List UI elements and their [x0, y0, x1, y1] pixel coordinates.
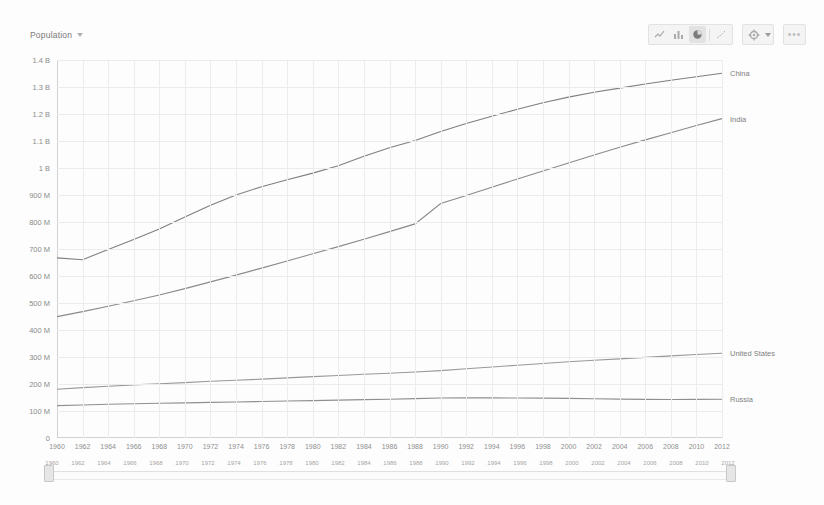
x-axis-tick-label: 1972	[203, 443, 219, 450]
y-axis-tick-label: 900 M	[29, 191, 50, 200]
slider-tick-label: 2004	[617, 460, 630, 466]
y-axis-tick-label: 700 M	[29, 245, 50, 254]
x-axis-tick-label: 1966	[126, 443, 142, 450]
toolbar-divider	[709, 29, 710, 41]
gridline-vertical	[262, 60, 263, 438]
slider-tick-label: 1988	[409, 460, 422, 466]
slider-tick-label: 2010	[695, 460, 708, 466]
gridline-vertical	[134, 60, 135, 438]
chart-toolbar: •••	[648, 24, 806, 45]
slider-tick-label: 2006	[643, 460, 656, 466]
slider-tick-label: 1972	[201, 460, 214, 466]
x-axis-tick-label: 1982	[331, 443, 347, 450]
slider-tick-label: 1974	[227, 460, 240, 466]
slider-tick-label: 1986	[383, 460, 396, 466]
chart-plot-area: 0100 M200 M300 M400 M500 M600 M700 M800 …	[57, 60, 722, 438]
y-axis-tick-label: 1.3 B	[32, 83, 50, 92]
slider-handle-left[interactable]	[44, 465, 54, 482]
y-axis-tick-label: 200 M	[29, 380, 50, 389]
slider-handle-right[interactable]	[726, 465, 736, 482]
x-axis-tick-label: 1980	[305, 443, 321, 450]
x-axis-tick-label: 1986	[382, 443, 398, 450]
slider-tick-label: 1970	[175, 460, 188, 466]
x-axis-tick-label: 2002	[586, 443, 602, 450]
gridline-vertical	[543, 60, 544, 438]
gear-icon[interactable]	[745, 26, 762, 43]
x-axis-tick-label: 1984	[356, 443, 372, 450]
slider-tick-label: 1982	[331, 460, 344, 466]
chevron-down-icon[interactable]	[765, 33, 771, 37]
chart-type-pie-icon[interactable]	[689, 26, 706, 43]
x-axis-tick-label: 2010	[689, 443, 705, 450]
chart-title-label: Population	[30, 30, 72, 40]
slider-tick-label: 1978	[279, 460, 292, 466]
slider-tick-label: 1964	[97, 460, 110, 466]
gridline-vertical	[466, 60, 467, 438]
chart-type-line-icon[interactable]	[651, 26, 668, 43]
x-axis-tick-label: 1964	[100, 443, 116, 450]
gridline-vertical	[415, 60, 416, 438]
series-label: Russia	[730, 395, 753, 404]
gridline-vertical	[236, 60, 237, 438]
chart-settings-group	[742, 24, 774, 45]
series-label: China	[730, 69, 750, 78]
slider-track[interactable]	[52, 471, 728, 480]
series-label: India	[730, 114, 746, 123]
y-axis-tick-label: 1.4 B	[32, 56, 50, 65]
x-axis-tick-label: 2004	[612, 443, 628, 450]
y-axis-tick-label: 1.1 B	[32, 137, 50, 146]
y-axis-tick-label: 600 M	[29, 272, 50, 281]
y-axis-tick-label: 300 M	[29, 353, 50, 362]
slider-tick-label: 1996	[513, 460, 526, 466]
y-axis-tick-label: 0	[46, 434, 50, 443]
slider-tick-label: 1976	[253, 460, 266, 466]
y-axis-tick-label: 1.2 B	[32, 110, 50, 119]
chevron-down-icon[interactable]	[77, 33, 83, 37]
slider-tick-label: 1980	[305, 460, 318, 466]
y-axis-tick-label: 500 M	[29, 299, 50, 308]
gridline-vertical	[492, 60, 493, 438]
slider-tick-label: 1990	[435, 460, 448, 466]
slider-tick-label: 1968	[149, 460, 162, 466]
x-axis-tick-label: 2000	[561, 443, 577, 450]
more-options-label: •••	[788, 30, 802, 40]
gridline-vertical	[671, 60, 672, 438]
gridline-vertical	[338, 60, 339, 438]
gridline-vertical	[696, 60, 697, 438]
gridline-vertical	[210, 60, 211, 438]
gridline-vertical	[364, 60, 365, 438]
gridline-vertical	[517, 60, 518, 438]
x-axis-tick-label: 1996	[510, 443, 526, 450]
gridline-vertical	[722, 60, 723, 438]
gridline-vertical	[620, 60, 621, 438]
gridline-vertical	[83, 60, 84, 438]
more-options-group: •••	[783, 24, 806, 45]
x-axis-tick-label: 2012	[714, 443, 730, 450]
gridline-vertical	[645, 60, 646, 438]
x-axis-tick-label: 1988	[407, 443, 423, 450]
x-axis-tick-label: 1974	[228, 443, 244, 450]
slider-tick-label: 2000	[565, 460, 578, 466]
more-options-button[interactable]: •••	[786, 26, 803, 43]
gridline-vertical	[390, 60, 391, 438]
x-axis-tick-label: 1994	[484, 443, 500, 450]
x-axis-tick-label: 1992	[458, 443, 474, 450]
chart-type-scatter-icon[interactable]	[713, 26, 730, 43]
slider-tick-label: 2002	[591, 460, 604, 466]
x-axis-tick-label: 2008	[663, 443, 679, 450]
x-axis-tick-label: 1976	[254, 443, 270, 450]
slider-tick-label: 1966	[123, 460, 136, 466]
chart-type-bar-icon[interactable]	[670, 26, 687, 43]
slider-tick-label: 1962	[71, 460, 84, 466]
year-range-slider[interactable]: 1960196219641966196819701972197419761978…	[40, 458, 740, 482]
x-axis-tick-label: 1970	[177, 443, 193, 450]
chart-title[interactable]: Population	[30, 30, 83, 40]
y-axis-tick-label: 1 B	[39, 164, 50, 173]
slider-tick-label: 1992	[461, 460, 474, 466]
x-axis-tick-label: 1990	[433, 443, 449, 450]
gridline-vertical	[108, 60, 109, 438]
gridline-vertical	[287, 60, 288, 438]
gridline-vertical	[159, 60, 160, 438]
x-axis-tick-label: 1978	[279, 443, 295, 450]
gridline-vertical	[569, 60, 570, 438]
